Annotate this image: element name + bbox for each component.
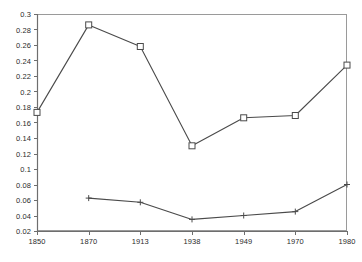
series-line-1 — [89, 185, 347, 220]
y-axis-tick-label: 0.16 — [0, 118, 31, 127]
y-axis-tick-label: 0.06 — [0, 196, 31, 205]
data-point-marker — [137, 44, 143, 50]
y-axis-tick-label: 0.28 — [0, 25, 31, 34]
y-axis-tick-label: 0.2 — [0, 87, 31, 96]
y-axis-tick-label: 0.3 — [0, 10, 31, 19]
line-chart-plot — [0, 0, 362, 262]
x-axis-tick-label: 1938 — [183, 237, 200, 246]
y-axis-tick-label: 0.26 — [0, 41, 31, 50]
data-point-marker — [292, 113, 298, 119]
x-axis-tick-label: 1980 — [338, 237, 355, 246]
data-point-marker — [86, 22, 92, 28]
y-axis-tick-label: 0.18 — [0, 103, 31, 112]
y-axis-tick-label: 0.02 — [0, 227, 31, 236]
x-axis-tick-label: 1870 — [80, 237, 97, 246]
x-axis-tick-label: 1949 — [235, 237, 252, 246]
y-axis-tick-label: 0.08 — [0, 180, 31, 189]
series-line-0 — [37, 25, 347, 146]
chart-container: 0.30.280.260.240.220.20.180.160.140.120.… — [0, 0, 362, 262]
data-point-marker — [241, 115, 247, 121]
data-point-marker — [344, 62, 350, 68]
y-axis-tick-label: 0.12 — [0, 149, 31, 158]
x-axis-tick-label: 1913 — [132, 237, 149, 246]
y-axis-tick-label: 0.04 — [0, 211, 31, 220]
y-axis-tick-label: 0.22 — [0, 72, 31, 81]
plot-frame — [38, 15, 347, 231]
data-point-marker — [34, 109, 40, 115]
data-point-marker — [189, 143, 195, 149]
x-axis-tick-label: 1970 — [287, 237, 304, 246]
y-axis-tick-label: 0.1 — [0, 165, 31, 174]
y-axis-tick-label: 0.24 — [0, 56, 31, 65]
y-axis-tick-label: 0.14 — [0, 134, 31, 143]
x-axis-tick-label: 1850 — [28, 237, 45, 246]
